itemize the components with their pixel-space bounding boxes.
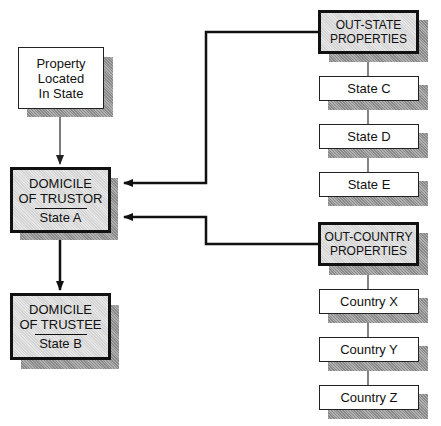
node-label: Country X: [340, 294, 398, 309]
node-label: State D: [347, 129, 390, 144]
node-domicile-of-trustee: DOMICILE OF TRUSTEE State B: [10, 293, 111, 360]
node-title: OF TRUSTOR: [18, 191, 102, 206]
node-state-e: State E: [319, 172, 419, 197]
divider: [35, 208, 87, 209]
node-title: OF TRUSTEE: [19, 317, 101, 332]
node-country-x: Country X: [319, 289, 419, 314]
node-title: OUT-STATE: [336, 18, 402, 32]
node-label: Property: [36, 56, 85, 71]
node-title: PROPERTIES: [330, 244, 407, 258]
node-state-c: State C: [319, 76, 419, 101]
node-label: State E: [348, 177, 391, 192]
node-state-d: State D: [319, 124, 419, 149]
node-title: PROPERTIES: [330, 32, 407, 46]
node-country-z: Country Z: [319, 385, 419, 410]
node-title: OUT-COUNTRY: [325, 230, 413, 244]
node-label: In State: [39, 86, 84, 101]
node-title: DOMICILE: [29, 176, 92, 191]
node-out-state-properties: OUT-STATE PROPERTIES: [318, 10, 419, 54]
node-out-country-properties: OUT-COUNTRY PROPERTIES: [318, 222, 419, 266]
node-label: Country Y: [340, 342, 398, 357]
node-subtitle: State B: [39, 336, 82, 351]
node-domicile-of-trustor: DOMICILE OF TRUSTOR State A: [10, 167, 111, 233]
node-property-in-state: Property Located In State: [18, 47, 104, 109]
node-subtitle: State A: [40, 210, 82, 225]
divider: [35, 334, 87, 335]
node-label: State C: [347, 81, 390, 96]
node-label: Located: [38, 71, 84, 86]
node-country-y: Country Y: [319, 337, 419, 362]
node-label: Country Z: [340, 390, 397, 405]
node-title: DOMICILE: [29, 302, 92, 317]
